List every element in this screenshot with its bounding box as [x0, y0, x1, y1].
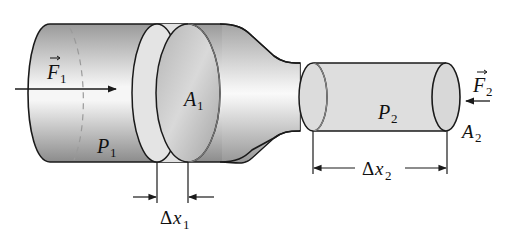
svg-text:A: A [460, 121, 474, 142]
svg-text:Δ: Δ [362, 158, 374, 179]
label-a2: A 2 [460, 121, 482, 145]
svg-text:2: 2 [475, 130, 482, 145]
svg-text:F: F [472, 74, 486, 96]
svg-text:x: x [374, 158, 384, 179]
svg-text:1: 1 [110, 145, 117, 160]
delta-x1-dimension [133, 162, 214, 203]
svg-text:x: x [172, 207, 182, 228]
label-delta-x2: Δ x 2 [362, 158, 392, 183]
bernoulli-pipe-diagram: F 1 A 1 P 1 Δ x 1 P 2 F 2 A 2 Δ x 2 [0, 0, 507, 238]
svg-text:1: 1 [60, 71, 67, 86]
svg-text:P: P [377, 101, 390, 123]
svg-text:2: 2 [385, 168, 392, 183]
svg-text:1: 1 [197, 98, 204, 113]
svg-text:1: 1 [183, 217, 190, 232]
fluid-element-1 [132, 24, 220, 162]
svg-text:F: F [46, 61, 60, 83]
area-a2-face [432, 63, 460, 131]
svg-text:2: 2 [486, 84, 493, 99]
svg-text:P: P [96, 135, 109, 157]
svg-text:A: A [182, 88, 197, 110]
tapered-neck [220, 24, 300, 162]
svg-text:Δ: Δ [160, 207, 172, 228]
label-f2: F 2 [472, 70, 493, 99]
svg-text:2: 2 [391, 111, 398, 126]
label-delta-x1: Δ x 1 [160, 207, 190, 232]
